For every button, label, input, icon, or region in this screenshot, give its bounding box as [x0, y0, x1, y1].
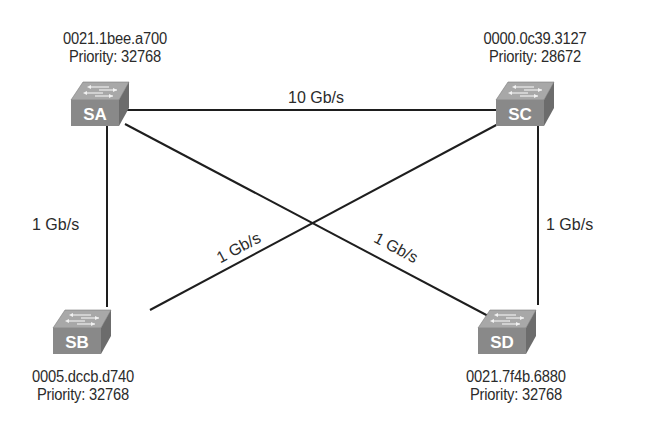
- link-sa-sc-speed: 10 Gb/s: [288, 89, 344, 107]
- switch-sd-name: SD: [490, 333, 514, 352]
- switch-sa-name: SA: [83, 105, 107, 124]
- switch-sd[interactable]: SD: [478, 310, 536, 354]
- switch-sa-priority: Priority: 32768: [46, 48, 184, 66]
- switch-sb-mac: 0005.dccb.d740: [14, 368, 152, 386]
- switch-sd-priority: Priority: 32768: [447, 386, 585, 404]
- link-sc-sd-speed: 1 Gb/s: [546, 216, 593, 234]
- switch-sa-info: 0021.1bee.a700 Priority: 32768: [46, 30, 184, 66]
- switch-sb-info: 0005.dccb.d740 Priority: 32768: [14, 368, 152, 404]
- switch-sc-priority: Priority: 28672: [466, 48, 604, 66]
- link-sa-sb-speed: 1 Gb/s: [32, 216, 79, 234]
- links: [107, 110, 538, 318]
- network-topology-diagram: SA SC SB SD 0021.1bee.a700 Priority: 327…: [0, 0, 652, 435]
- switch-sd-info: 0021.7f4b.6880 Priority: 32768: [447, 368, 585, 404]
- switch-sc-name: SC: [508, 105, 532, 124]
- switch-sc[interactable]: SC: [496, 82, 554, 126]
- switch-sd-mac: 0021.7f4b.6880: [447, 368, 585, 386]
- switch-sc-info: 0000.0c39.3127 Priority: 28672: [466, 30, 604, 66]
- switch-sc-mac: 0000.0c39.3127: [466, 30, 604, 48]
- switch-sb[interactable]: SB: [53, 310, 111, 354]
- switch-sa-mac: 0021.1bee.a700: [46, 30, 184, 48]
- switch-sb-name: SB: [65, 333, 89, 352]
- switch-sa[interactable]: SA: [71, 82, 129, 126]
- switch-sb-priority: Priority: 32768: [14, 386, 152, 404]
- link-sa-sd: [125, 124, 492, 318]
- link-sc-sb: [150, 123, 500, 310]
